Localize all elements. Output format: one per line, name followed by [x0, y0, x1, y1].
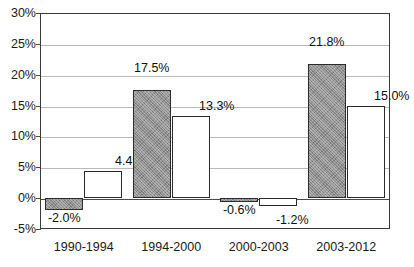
- bar-value-label: -1.2%: [261, 214, 323, 227]
- y-axis-tick-label: -5%: [0, 223, 36, 235]
- y-axis-tick-label: 20%: [0, 69, 36, 81]
- bar-value-label: 21.8%: [296, 36, 358, 49]
- bar-series-1-2000-2003: [220, 198, 258, 202]
- bar-series-1-2003-2012: [308, 64, 346, 199]
- bar-series-2-1994-2000: [172, 116, 210, 198]
- x-axis-category-label: 1990-1994: [40, 240, 128, 254]
- x-axis-category-label: 1994-2000: [128, 240, 216, 254]
- x-axis: 1990-19941994-20002000-20032003-2012: [40, 240, 390, 260]
- bar-series-2-1990-1994: [84, 171, 122, 198]
- bar-series-1-1990-1994: [45, 198, 83, 210]
- bar-value-label: 13.3%: [186, 100, 248, 113]
- y-axis-tick-mark: [36, 229, 41, 230]
- y-axis-tick-label: 25%: [0, 38, 36, 50]
- bar-value-label: 17.5%: [121, 62, 183, 75]
- y-axis-tick-label: 5%: [0, 161, 36, 173]
- bar-value-label: 15.0%: [361, 90, 414, 103]
- bar-series-2-2003-2012: [347, 106, 385, 199]
- bar-value-label: -2.0%: [33, 212, 95, 225]
- y-axis-tick-label: 15%: [0, 100, 36, 112]
- x-axis-category-label: 2000-2003: [215, 240, 303, 254]
- bars-layer: -2.0%4.4%17.5%13.3%-0.6%-1.2%21.8%15.0%: [40, 13, 390, 229]
- bar-series-1-1994-2000: [133, 90, 171, 198]
- bar-series-2-2000-2003: [259, 198, 297, 205]
- y-axis-tick-label: 30%: [0, 7, 36, 19]
- y-axis-tick-label: 0%: [0, 192, 36, 204]
- x-axis-category-label: 2003-2012: [303, 240, 391, 254]
- y-axis-tick-label: 10%: [0, 130, 36, 142]
